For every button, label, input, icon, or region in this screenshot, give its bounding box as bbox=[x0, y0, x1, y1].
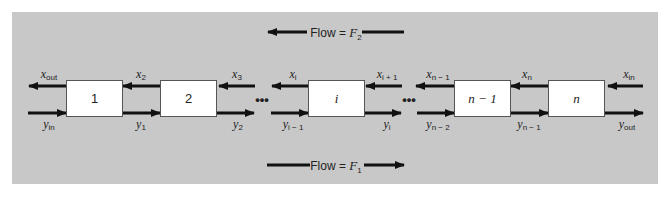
flow-f1-prefix: Flow = bbox=[310, 159, 349, 173]
flow-f1-label: Flow = F1 bbox=[310, 158, 361, 175]
label-y-i-minus-1: yi − 1 bbox=[283, 118, 304, 132]
label-x-i: xi bbox=[289, 68, 296, 82]
label-y-out: yout bbox=[619, 118, 635, 132]
ellipsis-left: ••• bbox=[255, 92, 269, 107]
stage-label: n bbox=[573, 91, 580, 107]
label-y-i: yi bbox=[383, 118, 390, 132]
label-x-in: xin bbox=[623, 68, 635, 82]
label-y-n-minus-2: yn − 2 bbox=[426, 118, 449, 132]
label-x-i-plus-1: xi + 1 bbox=[377, 68, 398, 82]
label-x-3: x3 bbox=[232, 68, 242, 82]
label-x-n: xn bbox=[522, 68, 532, 82]
stage-label: 2 bbox=[185, 91, 192, 106]
flow-f2-var: F bbox=[349, 25, 357, 40]
label-y-1: y1 bbox=[136, 118, 146, 132]
label-y-2: y2 bbox=[233, 118, 243, 132]
stage-box-2: 2 bbox=[160, 80, 217, 117]
flow-f1-sub: 1 bbox=[357, 166, 361, 175]
stage-label: 1 bbox=[91, 91, 98, 106]
label-x-2: x2 bbox=[136, 68, 146, 82]
flow-f2-label: Flow = F2 bbox=[310, 25, 361, 42]
stage-box-1: 1 bbox=[66, 80, 123, 117]
flow-f2-sub: 2 bbox=[357, 33, 361, 42]
ellipsis-right: ••• bbox=[402, 92, 416, 107]
label-x-n-minus-1: xn − 1 bbox=[426, 68, 449, 82]
stage-label: i bbox=[335, 91, 339, 107]
label-y-in: yin bbox=[43, 118, 55, 132]
stage-box-n-minus-1: n − 1 bbox=[454, 80, 511, 117]
stage-label: n − 1 bbox=[468, 91, 496, 107]
flow-f1-var: F bbox=[349, 158, 357, 173]
label-x-out: xout bbox=[41, 68, 57, 82]
flow-f2-prefix: Flow = bbox=[310, 26, 349, 40]
label-y-n-minus-1: yn − 1 bbox=[517, 118, 540, 132]
stage-box-n: n bbox=[548, 80, 605, 117]
stage-box-i: i bbox=[308, 80, 365, 117]
